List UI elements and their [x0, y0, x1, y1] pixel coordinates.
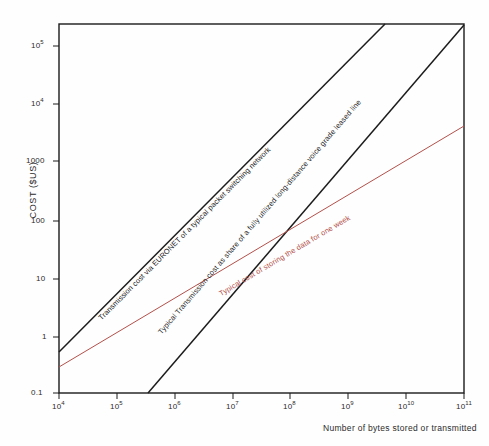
y-tick-label-10000: 104: [31, 99, 44, 108]
y-axis-title: COST ($US): [28, 150, 38, 230]
x-tick-marks: [59, 393, 464, 399]
y-tick-label-0.1: 0.1: [31, 388, 43, 397]
y-tick-label-1: 1: [42, 332, 47, 341]
plot-canvas: [0, 0, 489, 446]
x-tick-label-1e8: 108: [283, 402, 296, 411]
y-tick-marks: [53, 46, 59, 393]
x-axis-title: Number of bytes stored or transmitted: [323, 423, 477, 433]
x-tick-label-1e4: 104: [52, 402, 65, 411]
series-line-leased-line: [148, 25, 464, 393]
chart-figure: 105 104 1000 100 10 1 0.1 104 105 106 10…: [0, 0, 489, 446]
y-tick-label-100000: 105: [31, 41, 44, 50]
x-tick-label-1e5: 105: [110, 402, 123, 411]
x-tick-label-1e7: 107: [226, 402, 239, 411]
x-tick-label-1e10: 1010: [398, 402, 414, 411]
x-tick-label-1e6: 106: [168, 402, 181, 411]
y-tick-label-10: 10: [36, 274, 45, 283]
x-tick-label-1e9: 109: [341, 402, 354, 411]
x-tick-label-1e11: 1011: [456, 402, 472, 411]
